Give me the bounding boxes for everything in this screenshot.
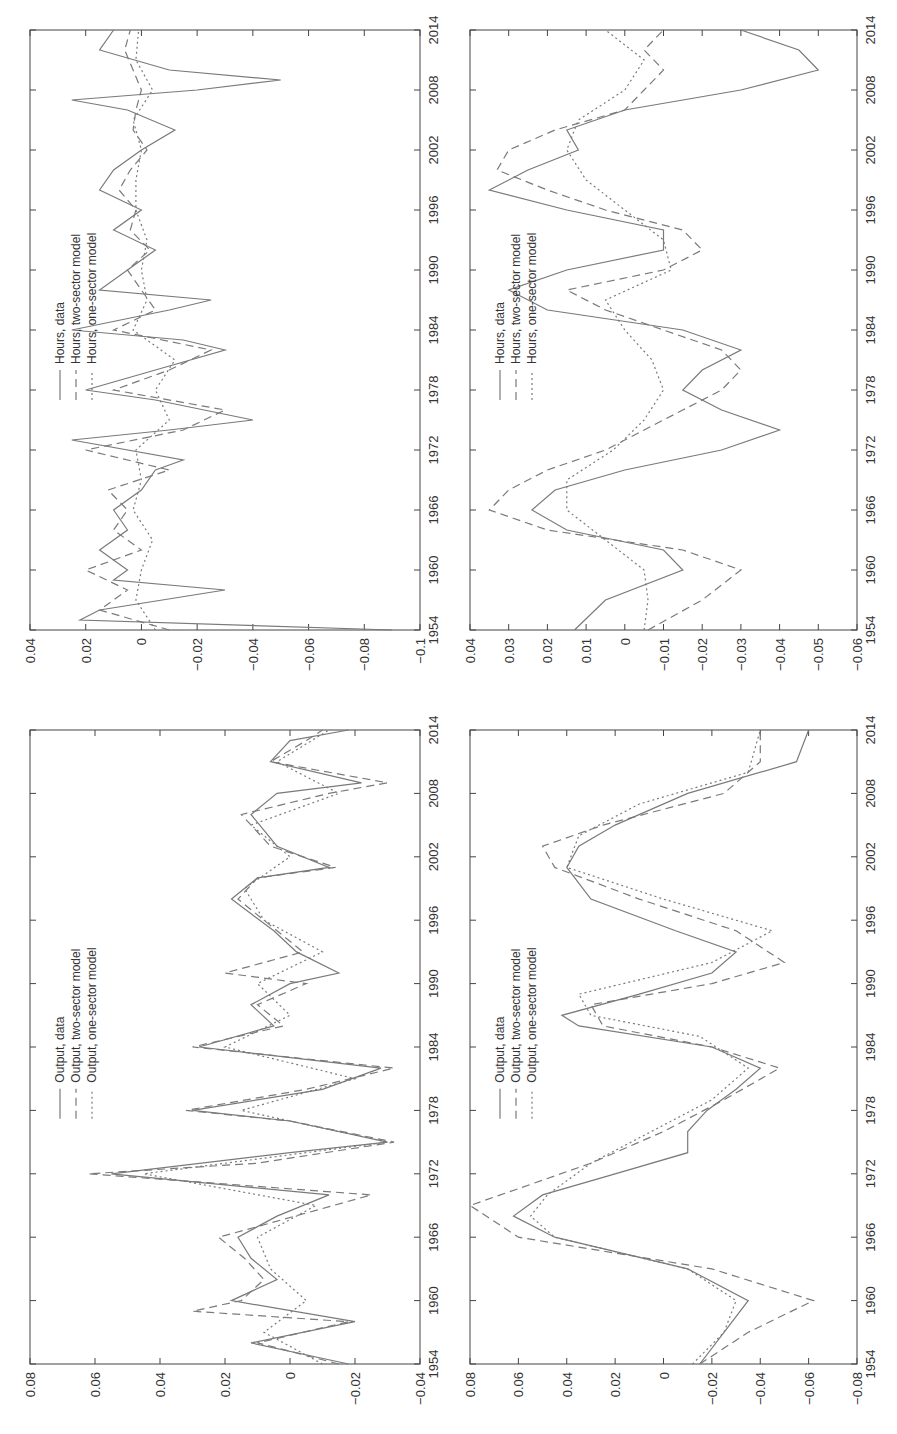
legend-label: Hours, one-sector model — [85, 233, 99, 364]
chart-hours-raw: 0.040.020−0.02−0.04−0.06−0.08−0.11954196… — [0, 0, 460, 700]
series-line — [89, 730, 395, 1364]
value-tick-label: −0.05 — [811, 638, 826, 671]
value-tick-label: −0.04 — [246, 638, 261, 671]
year-tick-label: 1996 — [426, 196, 441, 225]
year-tick-label: 1966 — [426, 496, 441, 525]
value-tick-label: 0.01 — [579, 638, 594, 663]
value-tick-label: 0.04 — [560, 1372, 575, 1397]
legend-label: Output, data — [493, 1016, 507, 1082]
year-tick-label: 1978 — [426, 376, 441, 405]
series-line — [86, 30, 225, 630]
year-tick-label: 1984 — [863, 316, 878, 345]
value-tick-label: 0.03 — [502, 638, 517, 663]
legend-label: Hours, data — [493, 302, 507, 364]
chart-hours-smoothed: 0.040.030.020.010−0.01−0.02−0.03−0.04−0.… — [440, 0, 897, 700]
year-tick-label: 2014 — [863, 16, 878, 45]
value-tick-label: 0.02 — [608, 1372, 623, 1397]
year-tick-label: 1984 — [863, 1033, 878, 1062]
value-tick-label: 0.02 — [540, 638, 555, 663]
series-line — [72, 30, 392, 630]
year-tick-label: 1978 — [863, 1096, 878, 1125]
value-tick-label: 0.08 — [463, 1372, 478, 1397]
legend-label: Hours, two-sector model — [509, 234, 523, 364]
panel-output-raw: 0.080.060.040.020−0.02−0.041954196019661… — [0, 700, 460, 1434]
year-tick-label: 1984 — [426, 316, 441, 345]
series-line — [514, 730, 809, 1364]
year-tick-label: 1978 — [426, 1096, 441, 1125]
value-tick-label: −0.04 — [773, 638, 788, 671]
year-tick-label: 1960 — [426, 556, 441, 585]
year-tick-label: 1996 — [863, 906, 878, 935]
value-tick-label: 0.02 — [79, 638, 94, 663]
value-tick-label: 0 — [618, 638, 633, 645]
year-tick-label: 2008 — [426, 779, 441, 808]
legend-label: Hours, two-sector model — [69, 234, 83, 364]
value-tick-label: 0 — [657, 1372, 672, 1379]
panel-output-smoothed: 0.080.060.040.020−0.02−0.04−0.06−0.08195… — [440, 700, 897, 1434]
year-tick-label: 1990 — [426, 256, 441, 285]
year-tick-label: 1990 — [863, 969, 878, 998]
year-tick-label: 2008 — [426, 76, 441, 105]
year-tick-label: 1996 — [426, 906, 441, 935]
year-tick-label: 2014 — [863, 716, 878, 745]
value-tick-label: 0.06 — [88, 1372, 103, 1397]
value-tick-label: 0.04 — [153, 1372, 168, 1397]
value-tick-label: −0.02 — [705, 1372, 720, 1405]
value-tick-label: −0.01 — [657, 638, 672, 671]
legend-label: Output, two-sector model — [69, 949, 83, 1083]
legend-label: Hours, data — [53, 302, 67, 364]
year-tick-label: 2002 — [863, 136, 878, 165]
year-tick-label: 1966 — [426, 1223, 441, 1252]
year-tick-label: 2002 — [426, 136, 441, 165]
value-tick-label: 0 — [283, 1372, 298, 1379]
year-tick-label: 1984 — [426, 1033, 441, 1062]
year-tick-label: 1960 — [863, 1286, 878, 1315]
year-tick-label: 1966 — [863, 1223, 878, 1252]
series-line — [133, 30, 175, 630]
year-tick-label: 2002 — [426, 842, 441, 871]
year-tick-label: 2002 — [863, 842, 878, 871]
value-tick-label: −0.02 — [695, 638, 710, 671]
panel-hours-smoothed: 0.040.030.020.010−0.01−0.02−0.03−0.04−0.… — [440, 0, 897, 700]
value-tick-label: 0.04 — [463, 638, 478, 663]
year-tick-label: 1960 — [863, 556, 878, 585]
panel-hours-raw: 0.040.020−0.02−0.04−0.06−0.08−0.11954196… — [0, 0, 460, 700]
series-line — [144, 730, 388, 1364]
year-tick-label: 1972 — [863, 436, 878, 465]
year-tick-label: 1990 — [863, 256, 878, 285]
value-tick-label: −0.03 — [734, 638, 749, 671]
legend-label: Output, one-sector model — [525, 947, 539, 1082]
year-tick-label: 2008 — [863, 76, 878, 105]
year-tick-label: 1996 — [863, 196, 878, 225]
value-tick-label: 0.08 — [23, 1372, 38, 1397]
year-tick-label: 1954 — [863, 616, 878, 645]
year-tick-label: 2014 — [426, 16, 441, 45]
year-tick-label: 2008 — [863, 779, 878, 808]
year-tick-label: 1990 — [426, 969, 441, 998]
year-tick-label: 1978 — [863, 376, 878, 405]
chart-output-smoothed: 0.080.060.040.020−0.02−0.04−0.06−0.08195… — [440, 700, 897, 1434]
legend-label: Output, data — [53, 1016, 67, 1082]
year-tick-label: 1954 — [426, 616, 441, 645]
year-tick-label: 2014 — [426, 716, 441, 745]
legend-label: Output, one-sector model — [85, 947, 99, 1082]
value-tick-label: 0 — [134, 638, 149, 645]
value-tick-label: 0.06 — [511, 1372, 526, 1397]
value-tick-label: 0.02 — [218, 1372, 233, 1397]
year-tick-label: 1966 — [863, 496, 878, 525]
legend-label: Hours, one-sector model — [525, 233, 539, 364]
value-tick-label: −0.06 — [302, 638, 317, 671]
value-tick-label: −0.02 — [348, 1372, 363, 1405]
value-tick-label: 0.04 — [23, 638, 38, 663]
year-tick-label: 1954 — [863, 1350, 878, 1379]
value-tick-label: −0.04 — [753, 1372, 768, 1405]
year-tick-label: 1972 — [426, 436, 441, 465]
year-tick-label: 1972 — [863, 1159, 878, 1188]
value-tick-label: −0.08 — [357, 638, 372, 671]
value-tick-label: −0.06 — [802, 1372, 817, 1405]
series-line — [111, 730, 387, 1364]
chart-output-raw: 0.080.060.040.020−0.02−0.041954196019661… — [0, 700, 460, 1434]
year-tick-label: 1972 — [426, 1159, 441, 1188]
year-tick-label: 1954 — [426, 1350, 441, 1379]
value-tick-label: −0.02 — [190, 638, 205, 671]
